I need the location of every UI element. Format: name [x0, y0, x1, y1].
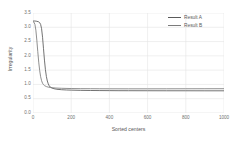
x-axis-title: Sorted centers — [33, 126, 224, 132]
legend-item[interactable]: Result A — [168, 13, 226, 21]
y-axis-title: Irregularity — [7, 29, 13, 89]
x-tick-label: 600 — [144, 115, 152, 120]
x-axis-tick-labels: 02004006008001000 — [33, 115, 224, 123]
chart-legend: Result AResult B — [166, 11, 228, 31]
legend-line-icon — [168, 25, 181, 26]
series-line-result-b — [33, 22, 224, 89]
x-tick-label: 800 — [182, 115, 190, 120]
y-tick-label: 1.5 — [24, 68, 31, 73]
y-tick-label: 2.0 — [24, 54, 31, 59]
y-tick-label: 0.0 — [24, 111, 31, 116]
x-tick-label: 400 — [106, 115, 114, 120]
y-tick-label: 0.5 — [24, 96, 31, 101]
y-tick-label: 1.0 — [24, 82, 31, 87]
x-tick-label: 1000 — [219, 115, 229, 120]
y-tick-label: 2.5 — [24, 39, 31, 44]
legend-item[interactable]: Result B — [168, 21, 226, 29]
legend-line-icon — [168, 17, 181, 18]
y-axis-tick-labels: 0.00.51.01.52.02.53.03.5 — [14, 13, 31, 113]
y-tick-label: 3.5 — [24, 11, 31, 16]
y-tick-label: 3.0 — [24, 25, 31, 30]
legend-label: Result A — [184, 15, 202, 20]
x-tick-label: 0 — [32, 115, 35, 120]
line-chart: 0.00.51.01.52.02.53.03.5 020040060080010… — [0, 0, 236, 144]
x-tick-label: 200 — [67, 115, 75, 120]
legend-label: Result B — [184, 23, 202, 28]
